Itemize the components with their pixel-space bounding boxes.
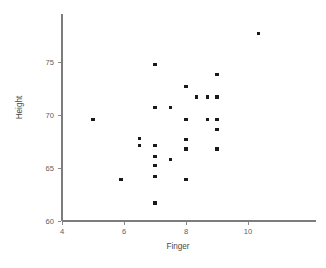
data-point (153, 201, 156, 204)
data-point (153, 155, 156, 158)
scatter-plot-figure: 46810 60657075 Finger Height (0, 0, 326, 268)
x-tick-label: 4 (60, 227, 64, 236)
data-point (153, 63, 156, 66)
x-tick-label: 8 (184, 227, 188, 236)
data-point (195, 95, 198, 98)
data-point (206, 95, 209, 98)
plot-axes (62, 14, 316, 221)
data-point (169, 106, 172, 109)
data-point (153, 106, 156, 109)
data-point (257, 32, 260, 35)
data-point (153, 175, 156, 178)
data-point (91, 118, 94, 121)
data-point (184, 85, 187, 88)
y-tick-label: 75 (46, 58, 54, 67)
x-axis-title: Finger (166, 242, 189, 251)
data-point (153, 164, 156, 167)
x-tick-label: 10 (244, 227, 252, 236)
data-point (119, 178, 122, 181)
y-tick-label: 70 (46, 111, 54, 120)
data-point (138, 137, 141, 140)
y-axis-title: Height (15, 95, 24, 119)
data-points-layer (91, 32, 260, 205)
data-point (184, 147, 187, 150)
data-point (184, 178, 187, 181)
plot-canvas: 46810 60657075 Finger Height (0, 0, 326, 268)
data-point (153, 144, 156, 147)
data-point (206, 118, 209, 121)
data-point (215, 128, 218, 131)
x-axis-ticks: 46810 (60, 222, 252, 236)
data-point (184, 118, 187, 121)
y-tick-label: 60 (46, 217, 54, 226)
data-point (215, 118, 218, 121)
data-point (138, 144, 141, 147)
data-point (215, 73, 218, 76)
y-axis-ticks: 60657075 (46, 58, 61, 226)
y-tick-label: 65 (46, 164, 54, 173)
data-point (184, 138, 187, 141)
data-point (215, 147, 218, 150)
data-point (215, 95, 218, 98)
data-point (169, 158, 172, 161)
x-tick-label: 6 (122, 227, 126, 236)
